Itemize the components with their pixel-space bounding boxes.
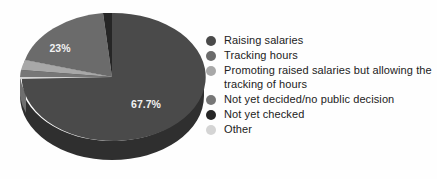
pie-label-secondary: 23%	[49, 42, 71, 54]
legend-dot-not-yet-decided	[206, 95, 216, 105]
legend-dot-promoting-raised-salaries	[206, 66, 216, 76]
legend-label-not-yet-checked: Not yet checked	[224, 107, 304, 121]
legend-item-tracking-hours[interactable]: Tracking hours	[206, 48, 437, 62]
legend-label-other: Other	[224, 122, 252, 136]
pie-chart-graphic: 67.7% 23%	[0, 0, 215, 179]
legend-dot-other	[206, 125, 216, 135]
legend-dot-raising-salaries	[206, 36, 216, 46]
legend-label-raising-salaries: Raising salaries	[224, 33, 303, 47]
legend-dot-tracking-hours	[206, 51, 216, 61]
pie-svg: 67.7% 23%	[0, 0, 215, 179]
pie-label-main: 67.7%	[131, 98, 161, 110]
legend-dot-not-yet-checked	[206, 110, 216, 120]
legend-item-raising-salaries[interactable]: Raising salaries	[206, 33, 437, 47]
pie-top-face	[20, 13, 206, 141]
chart-legend: Raising salaries Tracking hours Promotin…	[206, 33, 437, 137]
pie-chart-figure: 67.7% 23% Raising salaries Tracking hour…	[0, 0, 437, 179]
legend-item-promoting-raised-salaries[interactable]: Promoting raised salaries but allowing t…	[206, 63, 437, 91]
legend-item-not-yet-checked[interactable]: Not yet checked	[206, 107, 437, 121]
legend-label-tracking-hours: Tracking hours	[224, 48, 298, 62]
legend-label-not-yet-decided: Not yet decided/no public decision	[224, 92, 394, 106]
legend-label-promoting-raised-salaries: Promoting raised salaries but allowing t…	[224, 63, 432, 91]
legend-item-not-yet-decided[interactable]: Not yet decided/no public decision	[206, 92, 437, 106]
legend-item-other[interactable]: Other	[206, 122, 437, 136]
